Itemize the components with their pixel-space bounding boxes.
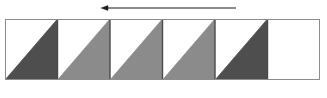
figure-canvas — [0, 0, 327, 98]
cell-6[interactable] — [268, 19, 321, 80]
cell-2[interactable] — [58, 19, 111, 80]
cell-4[interactable] — [163, 19, 216, 80]
cell-1[interactable] — [5, 19, 58, 80]
cell-3[interactable] — [110, 19, 163, 80]
cell-5[interactable] — [215, 19, 268, 80]
cell-strip-svg — [0, 0, 327, 98]
cell-6-background — [268, 19, 321, 80]
cell-strip-container — [0, 0, 327, 98]
cell-strip-group — [5, 19, 320, 80]
